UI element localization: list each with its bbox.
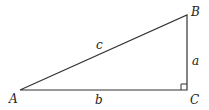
vertex-label-a: A [8, 92, 18, 106]
side-label-b: b [95, 93, 103, 107]
right-angle-marker [181, 84, 187, 90]
triangle-outline [20, 15, 187, 90]
vertex-label-b: B [190, 5, 200, 19]
vertex-label-c: C [190, 93, 199, 107]
side-label-c: c [96, 38, 103, 52]
side-label-a: a [192, 54, 199, 68]
right-triangle-diagram: A B C c b a [0, 0, 209, 110]
